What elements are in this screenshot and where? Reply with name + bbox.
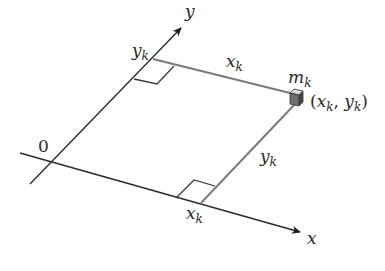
- x-axis-label: x: [307, 228, 317, 248]
- x-axis: [20, 153, 300, 232]
- coordinate-label: (xk, yk): [310, 91, 368, 114]
- diagram-svg: y x 0 yk xk mk (xk, yk) yk xk: [0, 0, 385, 271]
- right-angle-marker-y: [134, 66, 174, 84]
- y-distance-line: [201, 103, 296, 203]
- x-distance-line: [153, 59, 294, 94]
- mass-cube-icon: [290, 89, 303, 106]
- y-k-distance-label: yk: [259, 146, 277, 169]
- x-k-axis-label: xk: [186, 203, 203, 226]
- x-k-distance-label: xk: [226, 51, 243, 74]
- diagram-canvas: y x 0 yk xk mk (xk, yk) yk xk: [0, 0, 385, 271]
- y-axis-label: y: [184, 1, 195, 21]
- mass-label: mk: [288, 67, 311, 90]
- y-axis: [30, 28, 181, 184]
- origin-label: 0: [38, 136, 49, 156]
- y-k-axis-label: yk: [131, 40, 149, 63]
